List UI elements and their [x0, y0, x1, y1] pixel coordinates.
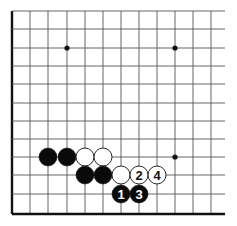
black-stone: 3	[130, 185, 148, 203]
black-stone	[76, 166, 94, 184]
stones: 2413	[39, 148, 166, 203]
go-board: 2413	[0, 0, 237, 226]
move-number-label: 1	[117, 187, 124, 202]
black-stone: 1	[112, 185, 130, 203]
black-stone	[94, 166, 112, 184]
star-point-icon	[172, 45, 177, 50]
white-stone	[94, 148, 112, 166]
white-stone	[112, 166, 130, 184]
star-point-icon	[64, 45, 69, 50]
white-stone: 2	[130, 166, 148, 184]
black-stone	[58, 148, 76, 166]
black-stone	[39, 148, 57, 166]
star-point-icon	[172, 154, 177, 159]
move-number-label: 4	[153, 168, 161, 183]
white-stone	[76, 148, 94, 166]
move-number-label: 3	[135, 187, 142, 202]
white-stone: 4	[148, 166, 166, 184]
move-number-label: 2	[135, 168, 142, 183]
